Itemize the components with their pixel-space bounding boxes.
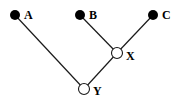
- node-b: [75, 10, 85, 20]
- edge-c-x: [117, 15, 153, 53]
- label-x: X: [126, 49, 135, 63]
- node-a: [10, 10, 20, 20]
- node-y: [79, 84, 90, 95]
- label-a: A: [24, 8, 33, 22]
- label-b: B: [89, 8, 97, 22]
- tree-diagram: A B C X Y: [0, 0, 183, 103]
- node-x: [112, 48, 123, 59]
- edge-a-y: [15, 15, 84, 89]
- node-c: [148, 10, 158, 20]
- label-c: C: [162, 8, 171, 22]
- label-y: Y: [93, 84, 102, 98]
- edge-b-x: [80, 15, 117, 53]
